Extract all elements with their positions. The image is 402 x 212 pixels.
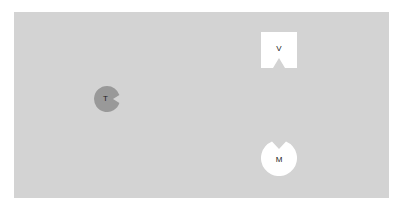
piece-v[interactable]: V: [261, 32, 297, 68]
piece-t[interactable]: T: [94, 86, 120, 112]
game-board: V T M: [14, 12, 389, 198]
piece-m[interactable]: M: [261, 140, 297, 176]
piece-t-label: T: [94, 94, 117, 103]
piece-v-label: V: [261, 44, 297, 53]
piece-m-label: M: [261, 155, 297, 164]
